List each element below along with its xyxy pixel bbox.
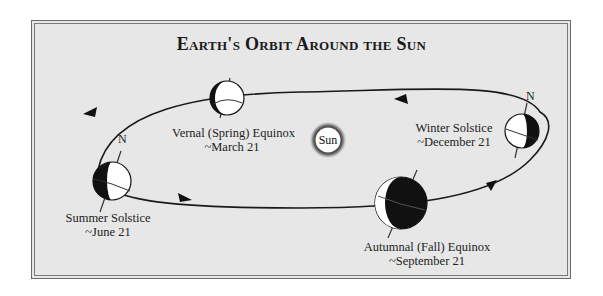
label-march: Vernal (Spring) Equinox ~March 21 [172,126,292,154]
orbit-diagram: N N Sun [0,0,603,296]
label-june: Summer Solstice ~June 21 [58,211,158,239]
label-september-name: Autumnal (Fall) Equinox [352,240,502,254]
earth-december-icon [505,103,539,158]
label-september: Autumnal (Fall) Equinox ~September 21 [352,240,502,268]
label-december-date: ~December 21 [408,135,500,149]
orbit-arrow-icon [486,180,497,191]
earth-march-icon [210,78,244,118]
label-december: Winter Solstice ~December 21 [408,121,500,149]
earth-september-icon [375,170,427,238]
label-december-name: Winter Solstice [408,121,500,135]
label-june-name: Summer Solstice [58,211,158,225]
orbit-arrow-icon [83,107,97,117]
label-september-date: ~September 21 [352,254,502,268]
label-march-name: Vernal (Spring) Equinox [172,126,292,140]
sun-label: Sun [319,133,338,147]
north-label-december: N [526,89,535,103]
orbit-arrow-icon [178,193,192,202]
earth-june-icon [93,151,131,212]
label-march-date: ~March 21 [172,140,292,154]
label-june-date: ~June 21 [58,225,158,239]
orbit-arrow-icon [394,94,408,104]
north-label-june: N [118,132,127,146]
